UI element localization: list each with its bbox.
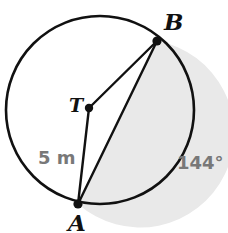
point-marker-T (85, 104, 93, 112)
label-point-b: B (164, 10, 183, 33)
label-radius-measure: 5 m (38, 149, 76, 167)
circle-segment-drawing (0, 0, 228, 233)
label-center-t: T (69, 96, 83, 115)
label-point-a: A (68, 211, 86, 233)
point-marker-B (152, 36, 161, 45)
geometry-figure: B A T 5 m 144° (0, 0, 228, 233)
label-arc-angle: 144° (177, 154, 224, 172)
point-marker-A (73, 199, 82, 208)
shaded-segment-region (78, 41, 228, 227)
